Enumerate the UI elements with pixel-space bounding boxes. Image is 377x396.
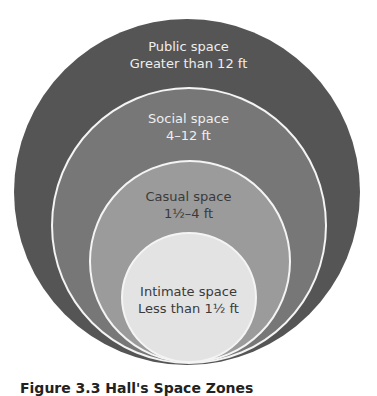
casual-name: Casual space <box>0 188 377 205</box>
casual-label: Casual space 1½–4 ft <box>0 188 377 222</box>
casual-distance: 1½–4 ft <box>0 205 377 222</box>
figure-caption: Figure 3.3 Hall's Space Zones <box>20 380 253 396</box>
intimate-name: Intimate space <box>0 283 377 300</box>
social-distance: 4–12 ft <box>0 127 377 144</box>
social-name: Social space <box>0 110 377 127</box>
social-label: Social space 4–12 ft <box>0 110 377 144</box>
public-label: Public space Greater than 12 ft <box>0 38 377 72</box>
intimate-label: Intimate space Less than 1½ ft <box>0 283 377 317</box>
public-distance: Greater than 12 ft <box>0 55 377 72</box>
intimate-distance: Less than 1½ ft <box>0 300 377 317</box>
public-name: Public space <box>0 38 377 55</box>
